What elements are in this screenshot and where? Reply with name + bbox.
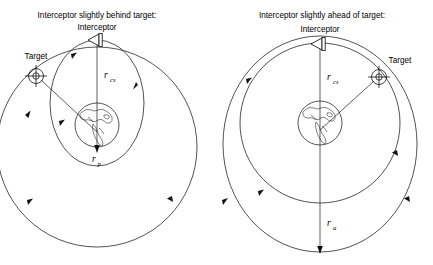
right-orbit-arrow-1: [258, 190, 264, 197]
left-transfer-arrow-1: [71, 53, 77, 60]
right-transfer-arrow-2: [222, 198, 228, 205]
left-r-cs-label: r cs: [104, 70, 116, 83]
right-r-a-label: r a: [327, 218, 337, 231]
svg-text:cs: cs: [110, 76, 116, 83]
svg-text:r: r: [327, 218, 331, 228]
orbital-diagram-svg: Interceptor slightly behind target:: [0, 0, 433, 265]
svg-text:r: r: [104, 70, 108, 80]
left-orbit-arrow-2: [27, 199, 33, 206]
left-interceptor-icon: [88, 34, 102, 47]
right-target-icon: [368, 66, 390, 88]
diagram-canvas: Interceptor slightly behind target:: [0, 0, 433, 265]
left-target-icon: [25, 65, 47, 87]
left-orbit-arrow-3: [167, 196, 173, 202]
svg-text:p: p: [97, 160, 102, 167]
right-r-cs-label: r cs: [327, 72, 339, 85]
left-target-radius-line: [41, 80, 97, 132]
left-target-label: Target: [25, 52, 48, 61]
left-interceptor-label: Interceptor: [77, 23, 116, 32]
panel-left: Interceptor slightly behind target:: [0, 11, 197, 247]
left-r-p-label: r p: [92, 154, 102, 167]
panel-left-title: Interceptor slightly behind target:: [38, 11, 157, 20]
left-transfer-arrow-3: [59, 120, 65, 127]
right-earth-continents: [303, 107, 336, 144]
right-interceptor-label: Interceptor: [300, 25, 339, 34]
right-r-a-arrowhead: [317, 246, 323, 254]
right-interceptor-icon: [311, 38, 325, 51]
left-earth-continents: [80, 109, 113, 146]
right-target-radius-line: [320, 81, 374, 130]
svg-text:cs: cs: [333, 78, 339, 85]
left-transfer-arrow-2: [133, 82, 138, 90]
left-orbit-arrow-1: [25, 111, 31, 119]
left-r-p-arrowhead: [94, 145, 100, 153]
svg-text:r: r: [327, 72, 331, 82]
svg-text:a: a: [333, 224, 337, 231]
panel-right-title: Interceptor slightly ahead of target:: [259, 11, 385, 20]
right-target-label: Target: [389, 56, 412, 65]
svg-text:r: r: [92, 154, 96, 164]
panel-right: Interceptor slightly ahead of target:: [222, 11, 417, 254]
